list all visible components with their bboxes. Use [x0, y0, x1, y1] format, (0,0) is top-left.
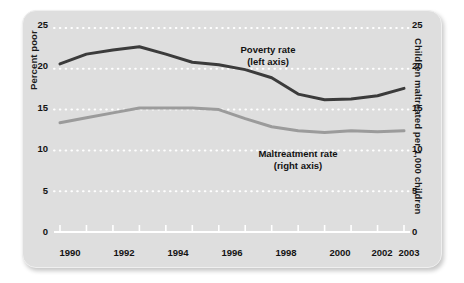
y-axis-left-tick-15: 15: [26, 103, 48, 113]
x-axis-tick-1994: 1994: [148, 248, 208, 258]
x-axis-tick-1990: 1990: [40, 248, 100, 258]
data-series-group: [60, 47, 404, 133]
x-axis-group: [54, 225, 410, 232]
y-axis-left-tick-10: 10: [26, 144, 48, 154]
chart-plot-area: [52, 20, 412, 235]
series-line-poverty-rate: [60, 47, 404, 100]
x-axis-tick-1996: 1996: [202, 248, 262, 258]
y-axis-right-tick-0: 0: [412, 227, 434, 237]
y-axis-left-tick-5: 5: [26, 186, 48, 196]
gridlines-group: [54, 28, 410, 191]
y-axis-right-tick-10: 10: [412, 144, 434, 154]
y-axis-left-tick-0: 0: [26, 227, 48, 237]
series-line-maltreatment-rate: [60, 108, 404, 132]
x-axis-tick-1992: 1992: [94, 248, 154, 258]
y-axis-left-tick-25: 25: [26, 20, 48, 30]
y-axis-right-tick-15: 15: [412, 103, 434, 113]
y-axis-right-tick-25: 25: [412, 20, 434, 30]
x-axis-tick-2003: 2003: [385, 248, 433, 258]
chart-figure: Percent poor Children maltreated per 1,0…: [0, 0, 464, 283]
y-axis-right-tick-20: 20: [412, 61, 434, 71]
x-axis-tick-1998: 1998: [256, 248, 316, 258]
y-axis-right-tick-5: 5: [412, 186, 434, 196]
y-axis-left-tick-20: 20: [26, 61, 48, 71]
